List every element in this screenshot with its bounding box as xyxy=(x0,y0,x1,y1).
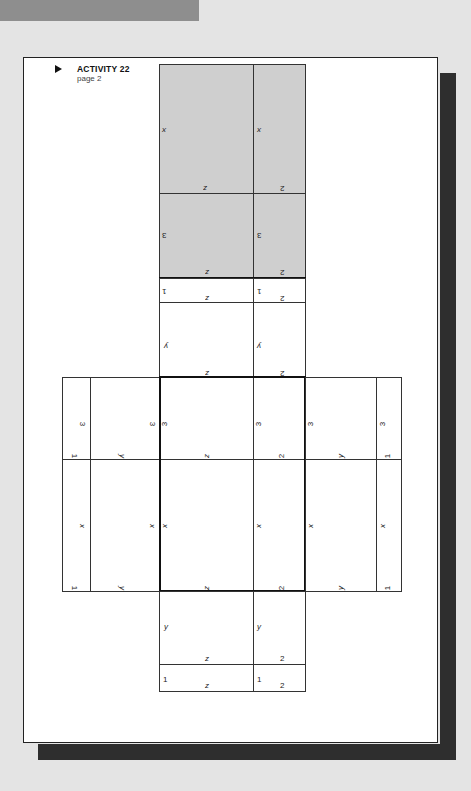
label: 2 xyxy=(280,184,284,192)
label: z xyxy=(203,454,211,458)
label: y xyxy=(337,586,345,590)
label: 2 xyxy=(280,268,284,276)
label: 1 xyxy=(70,586,78,590)
label: y xyxy=(118,454,126,458)
activity-title: ACTIVITY 22 xyxy=(77,64,130,74)
label: 3 xyxy=(161,422,169,426)
label: z xyxy=(203,184,207,192)
label: 3 xyxy=(379,422,387,426)
label: 1 xyxy=(257,287,261,295)
label: x xyxy=(307,524,315,528)
label: 3 xyxy=(162,231,166,239)
label: 2 xyxy=(280,294,284,302)
label: x xyxy=(78,524,86,528)
label: 2 xyxy=(278,454,286,458)
label: 2 xyxy=(278,586,286,590)
label: y xyxy=(118,586,126,590)
label: z xyxy=(205,268,209,276)
label: x xyxy=(257,126,261,134)
label: 2 xyxy=(280,655,284,663)
label: y xyxy=(164,342,168,350)
label: y xyxy=(164,623,168,631)
triangle-marker-icon xyxy=(55,65,62,73)
net-face-y-top-right xyxy=(253,302,306,378)
label: 2 xyxy=(280,369,284,377)
label: 1 xyxy=(257,676,261,684)
net-face-shaded-second-left xyxy=(159,193,254,279)
label: 1 xyxy=(384,586,392,590)
page-shadow-bottom xyxy=(38,744,456,760)
label: 3 xyxy=(255,422,263,426)
label: y xyxy=(337,454,345,458)
top-banner-bar xyxy=(0,0,199,21)
net-face-center-top-right xyxy=(253,377,306,460)
label: z xyxy=(205,294,209,302)
label: x xyxy=(162,126,166,134)
label: z xyxy=(205,655,209,663)
label: x xyxy=(379,524,387,528)
label: y xyxy=(257,342,261,350)
page-shadow-right xyxy=(440,73,456,760)
label: x xyxy=(148,524,156,528)
label: z xyxy=(205,369,209,377)
activity-subtitle: page 2 xyxy=(77,74,101,83)
net-flap-right-inner-top xyxy=(305,377,377,460)
label: x xyxy=(161,524,169,528)
label: 2 xyxy=(280,682,284,690)
label: 3 xyxy=(257,231,261,239)
label: 1 xyxy=(163,676,167,684)
net-flap-left-outer-top xyxy=(62,377,91,460)
net-flap-right-inner-bottom xyxy=(305,459,377,592)
net-face-center-bottom-left xyxy=(159,459,254,592)
label: 1 xyxy=(384,454,392,458)
label: 3 xyxy=(78,422,86,426)
net-flap-right-outer-top xyxy=(376,377,402,460)
net-face-center-top-left xyxy=(159,377,254,460)
label: 3 xyxy=(148,422,156,426)
label: x xyxy=(255,524,263,528)
net-face-y-top-left xyxy=(159,302,254,378)
net-flap-left-inner-top xyxy=(90,377,161,460)
label: z xyxy=(205,682,209,690)
label: 3 xyxy=(307,422,315,426)
net-face-shaded-top-left xyxy=(159,64,254,194)
label: z xyxy=(203,586,211,590)
label: y xyxy=(257,623,261,631)
label: 1 xyxy=(162,287,166,295)
label: 1 xyxy=(70,454,78,458)
